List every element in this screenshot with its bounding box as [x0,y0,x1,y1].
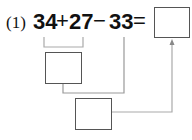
arrow-up-icon [170,39,175,45]
operand-1: 34 [33,11,57,33]
math-problem: (1) 34 + 27 − 33 = [0,0,192,140]
problem-label: (1) [6,14,26,31]
operand-2: 27 [69,11,93,33]
operator-plus: + [56,10,69,32]
operand-3: 33 [109,11,133,33]
intermediate-answer-box-1[interactable] [45,52,82,84]
result-answer-box[interactable] [154,7,190,38]
intermediate-answer-box-2[interactable] [75,98,112,130]
operator-equals: = [133,10,146,32]
operator-minus: − [93,10,106,32]
